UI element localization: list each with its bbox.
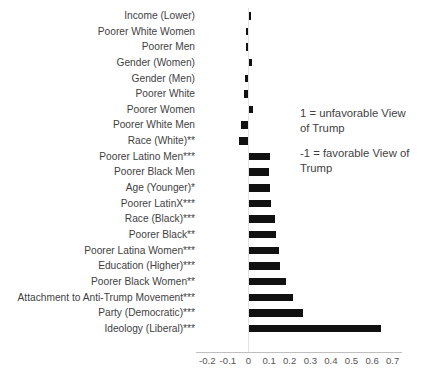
bar-category-label: Education (Higher)*** bbox=[98, 258, 195, 274]
bar-category-label: Age (Younger)* bbox=[126, 180, 195, 196]
bar-category-label: Gender (Men) bbox=[132, 71, 195, 87]
bar bbox=[249, 12, 251, 20]
bar bbox=[249, 200, 272, 208]
chart-row: Gender (Men) bbox=[0, 71, 433, 87]
chart-row: Poorer White Women bbox=[0, 24, 433, 40]
bar-category-label: Income (Lower) bbox=[124, 8, 195, 24]
x-tick-label: 0.4 bbox=[324, 355, 337, 366]
bar bbox=[249, 59, 253, 67]
annotation-unfavorable: 1 = unfavorable View of Trump bbox=[300, 106, 406, 136]
x-tick-label: -0.2 bbox=[199, 355, 216, 366]
bar bbox=[249, 262, 281, 270]
x-tick-label: 0.5 bbox=[345, 355, 358, 366]
bar-category-label: Poorer Latina Women*** bbox=[84, 243, 195, 259]
bar-category-label: Attachment to Anti-Trump Movement*** bbox=[18, 290, 195, 306]
x-axis-tick-labels: -0.2-0.100.10.20.30.40.50.60.7 bbox=[0, 355, 433, 369]
bar bbox=[249, 168, 270, 176]
bar bbox=[249, 278, 286, 286]
bar-category-label: Gender (Women) bbox=[116, 55, 195, 71]
chart-row: Poorer White bbox=[0, 86, 433, 102]
bar-category-label: Race (Black)*** bbox=[125, 211, 195, 227]
chart-row: Party (Democratic)*** bbox=[0, 305, 433, 321]
chart-row: Education (Higher)*** bbox=[0, 258, 433, 274]
x-tick-label: 0.3 bbox=[304, 355, 317, 366]
bar bbox=[241, 121, 248, 129]
chart-row: Race (Black)*** bbox=[0, 211, 433, 227]
bar-category-label: Poorer Latino Men*** bbox=[99, 149, 195, 165]
bar bbox=[245, 75, 249, 83]
x-tick-label: -0.1 bbox=[220, 355, 237, 366]
bar bbox=[244, 90, 249, 98]
bar bbox=[249, 153, 271, 161]
bar bbox=[249, 294, 293, 302]
annotation-favorable: -1 = favorable View of Trump bbox=[300, 146, 409, 176]
bar-category-label: Poorer LatinX*** bbox=[121, 196, 195, 212]
chart-row: Poorer LatinX*** bbox=[0, 196, 433, 212]
bar-category-label: Poorer Black** bbox=[129, 227, 195, 243]
chart-row: Poorer Black Women** bbox=[0, 274, 433, 290]
chart-row: Poorer Black** bbox=[0, 227, 433, 243]
bar-category-label: Ideology (Liberal)*** bbox=[104, 321, 195, 337]
bar bbox=[246, 43, 248, 51]
bar-category-label: Poorer Black Men bbox=[114, 164, 195, 180]
x-axis-line bbox=[196, 352, 402, 353]
bar bbox=[246, 28, 248, 36]
bar bbox=[249, 231, 277, 239]
x-tick-label: 0.7 bbox=[386, 355, 399, 366]
bar-category-label: Race (White)** bbox=[128, 133, 195, 149]
bar bbox=[249, 184, 271, 192]
chart-row: Poorer Latina Women*** bbox=[0, 243, 433, 259]
bar-category-label: Poorer Black Women** bbox=[91, 274, 195, 290]
chart-row: Age (Younger)* bbox=[0, 180, 433, 196]
bar bbox=[249, 106, 253, 114]
bar-category-label: Party (Democratic)*** bbox=[98, 305, 195, 321]
bar-category-label: Poorer Men bbox=[142, 39, 195, 55]
chart-row: Poorer Men bbox=[0, 39, 433, 55]
bar-rows-container: Income (Lower)Poorer White WomenPoorer M… bbox=[0, 8, 433, 352]
bar bbox=[249, 309, 304, 317]
x-tick-label: 0.2 bbox=[283, 355, 296, 366]
chart-row: Ideology (Liberal)*** bbox=[0, 321, 433, 337]
bar-category-label: Poorer White Men bbox=[113, 117, 195, 133]
x-tick-label: 0.1 bbox=[262, 355, 275, 366]
bar-category-label: Poorer Women bbox=[127, 102, 195, 118]
bar bbox=[249, 215, 276, 223]
bar bbox=[249, 325, 382, 333]
bar bbox=[249, 247, 280, 255]
chart-row: Gender (Women) bbox=[0, 55, 433, 71]
bar-category-label: Poorer White bbox=[136, 86, 195, 102]
bar-category-label: Poorer White Women bbox=[98, 24, 195, 40]
horizontal-bar-chart: Income (Lower)Poorer White WomenPoorer M… bbox=[0, 0, 433, 387]
x-tick-label: 0 bbox=[246, 355, 251, 366]
chart-row: Income (Lower) bbox=[0, 8, 433, 24]
x-tick-label: 0.6 bbox=[365, 355, 378, 366]
chart-row: Attachment to Anti-Trump Movement*** bbox=[0, 290, 433, 306]
bar bbox=[239, 137, 248, 145]
